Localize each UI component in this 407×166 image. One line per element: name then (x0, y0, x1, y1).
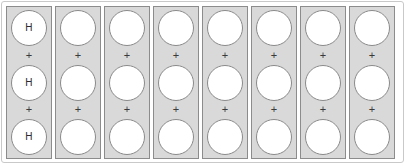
column-row: H+H+H++++++++++++++ (6, 6, 401, 159)
unit-circle[interactable] (158, 119, 194, 155)
plus-icon: + (75, 50, 81, 61)
plus-icon: + (173, 50, 179, 61)
plus-icon: + (320, 104, 326, 115)
unit-circle[interactable] (305, 65, 341, 101)
plus-icon: + (271, 50, 277, 61)
unit-circle[interactable]: H (11, 119, 47, 155)
unit-circle[interactable] (354, 65, 390, 101)
unit-circle[interactable] (305, 10, 341, 46)
plus-icon: + (222, 104, 228, 115)
unit-circle[interactable] (256, 119, 292, 155)
unit-label: H (25, 78, 32, 88)
plus-icon: + (124, 104, 130, 115)
unit-circle[interactable] (305, 119, 341, 155)
unit-circle[interactable] (60, 119, 96, 155)
plus-icon: + (26, 50, 32, 61)
plus-icon: + (369, 50, 375, 61)
unit-circle[interactable]: H (11, 65, 47, 101)
plus-icon: + (320, 50, 326, 61)
plus-icon: + (75, 104, 81, 115)
column-7[interactable]: ++ (300, 6, 346, 159)
unit-circle[interactable] (207, 119, 243, 155)
column-5[interactable]: ++ (202, 6, 248, 159)
unit-circle[interactable] (256, 65, 292, 101)
plus-icon: + (369, 104, 375, 115)
column-8[interactable]: ++ (349, 6, 395, 159)
column-3[interactable]: ++ (104, 6, 150, 159)
unit-circle[interactable] (158, 65, 194, 101)
unit-circle[interactable] (207, 65, 243, 101)
unit-circle[interactable] (60, 10, 96, 46)
plus-icon: + (124, 50, 130, 61)
unit-circle[interactable] (207, 10, 243, 46)
unit-circle[interactable] (158, 10, 194, 46)
plus-icon: + (222, 50, 228, 61)
plus-icon: + (173, 104, 179, 115)
unit-circle[interactable]: H (11, 10, 47, 46)
unit-circle[interactable] (354, 119, 390, 155)
unit-circle[interactable] (109, 119, 145, 155)
unit-circle[interactable] (256, 10, 292, 46)
plus-icon: + (26, 104, 32, 115)
column-4[interactable]: ++ (153, 6, 199, 159)
unit-label: H (25, 23, 32, 33)
unit-circle[interactable] (60, 65, 96, 101)
unit-circle[interactable] (354, 10, 390, 46)
column-1[interactable]: H+H+H (6, 6, 52, 159)
column-2[interactable]: ++ (55, 6, 101, 159)
column-6[interactable]: ++ (251, 6, 297, 159)
plus-icon: + (271, 104, 277, 115)
figure-canvas: H+H+H++++++++++++++ (0, 0, 407, 166)
unit-circle[interactable] (109, 65, 145, 101)
unit-circle[interactable] (109, 10, 145, 46)
unit-label: H (25, 132, 32, 142)
